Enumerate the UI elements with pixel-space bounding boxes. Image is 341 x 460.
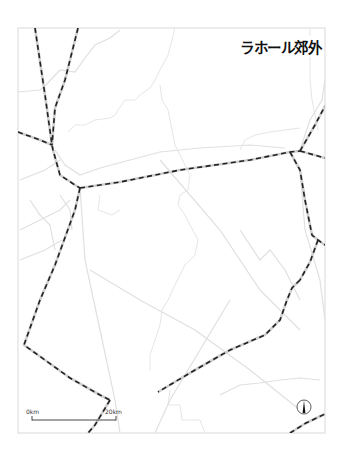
scale-end-label: 20km <box>105 408 122 415</box>
map-title: ラホール郊外 <box>238 36 323 57</box>
north-arrow-icon <box>297 400 311 414</box>
scale-start-label: 0km <box>26 408 39 415</box>
map-canvas <box>0 0 341 460</box>
